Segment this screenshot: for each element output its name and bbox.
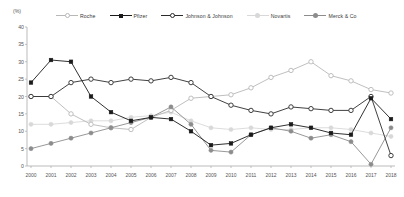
legend-item-label: Johnson & Johnson [185, 13, 232, 19]
x-axis-tick-label: 2017 [365, 172, 376, 178]
data-point [169, 105, 173, 109]
data-point [349, 133, 353, 137]
legend-item-novartis[interactable]: Novartis [247, 12, 291, 19]
x-axis-tick-label: 2015 [325, 172, 336, 178]
data-point [309, 60, 313, 64]
data-point [109, 126, 113, 130]
data-point [129, 127, 133, 131]
data-point [289, 105, 293, 109]
data-point [289, 123, 293, 127]
data-point [209, 94, 213, 98]
data-point [249, 133, 253, 137]
data-point [29, 122, 33, 126]
pfizer-legend-icon [110, 12, 132, 19]
plot-area [27, 27, 395, 166]
merck-legend-icon [304, 12, 326, 19]
data-point [329, 73, 333, 77]
data-point [249, 108, 253, 112]
data-point [209, 126, 213, 130]
x-axis-tick-label: 2012 [265, 172, 276, 178]
x-axis-tick-label: 2010 [225, 172, 236, 178]
y-axis-tick-label: 0 [10, 163, 24, 169]
series-line [31, 112, 391, 136]
x-axis-tick-label: 2006 [145, 172, 156, 178]
data-point [229, 150, 233, 154]
data-point [349, 79, 353, 83]
series-merck-co [29, 105, 393, 167]
data-point [89, 131, 93, 135]
data-point [49, 122, 53, 126]
data-point [89, 77, 93, 81]
data-point [29, 147, 33, 151]
chart-root: RochePfizerJohnson & JohnsonNovartisMerc… [0, 0, 404, 197]
data-point [69, 136, 73, 140]
data-point [269, 75, 273, 79]
legend-item-merck-co[interactable]: Merck & Co [304, 12, 356, 19]
data-point [389, 153, 393, 157]
data-point [109, 119, 113, 123]
legend-item-label: Roche [80, 13, 96, 19]
legend-item-johnson-johnson[interactable]: Johnson & Johnson [161, 12, 232, 19]
series-line [31, 60, 391, 145]
y-axis-tick-label: 35 [10, 41, 24, 47]
data-point [29, 94, 33, 98]
data-point [189, 122, 193, 126]
data-point [189, 129, 193, 133]
data-point [49, 94, 53, 98]
data-point [189, 96, 193, 100]
y-axis-tick-label: 25 [10, 76, 24, 82]
data-point [89, 122, 93, 126]
data-point [289, 129, 293, 133]
data-point [149, 116, 153, 120]
data-point [309, 136, 313, 140]
x-axis-tick-label: 2018 [385, 172, 396, 178]
data-point [149, 79, 153, 83]
x-axis-tick-label: 2008 [185, 172, 196, 178]
data-point [109, 80, 113, 84]
legend-item-label: Novartis [271, 13, 291, 19]
y-axis-tick-label: 10 [10, 128, 24, 134]
y-axis-tick-label: 15 [10, 111, 24, 117]
data-point [369, 96, 373, 100]
legend-item-roche[interactable]: Roche [56, 12, 96, 19]
data-point [109, 110, 113, 114]
x-axis-tick-label: 2016 [345, 172, 356, 178]
data-point [49, 58, 53, 62]
x-axis-tick-label: 2014 [305, 172, 316, 178]
data-point [129, 77, 133, 81]
data-point [209, 143, 213, 147]
data-point [89, 95, 93, 99]
data-point [389, 91, 393, 95]
series-line [31, 107, 391, 164]
data-point [389, 117, 393, 121]
data-point [329, 108, 333, 112]
legend-item-pfizer[interactable]: Pfizer [110, 12, 148, 19]
x-axis-tick-label: 2003 [85, 172, 96, 178]
series-novartis [29, 110, 393, 139]
data-point [369, 162, 373, 166]
data-point [329, 126, 333, 130]
y-axis-ticks: 0510152025303540 [8, 27, 24, 166]
data-point [69, 112, 73, 116]
data-point [209, 148, 213, 152]
data-point [289, 68, 293, 72]
data-point [389, 134, 393, 138]
chart-canvas [27, 27, 395, 166]
y-axis-tick-label: 40 [10, 24, 24, 30]
data-point [249, 126, 253, 130]
data-point [309, 106, 313, 110]
chart-legend: RochePfizerJohnson & JohnsonNovartisMerc… [56, 9, 357, 22]
data-point [69, 60, 73, 64]
data-point [229, 93, 233, 97]
novartis-legend-icon [247, 12, 269, 19]
data-point [229, 142, 233, 146]
data-point [269, 112, 273, 116]
data-point [369, 131, 373, 135]
data-point [189, 80, 193, 84]
series-pfizer [29, 58, 393, 147]
data-point [349, 127, 353, 131]
y-axis-tick-label: 30 [10, 59, 24, 65]
x-axis-tick-label: 2000 [25, 172, 36, 178]
data-point [49, 141, 53, 145]
data-point [69, 80, 73, 84]
